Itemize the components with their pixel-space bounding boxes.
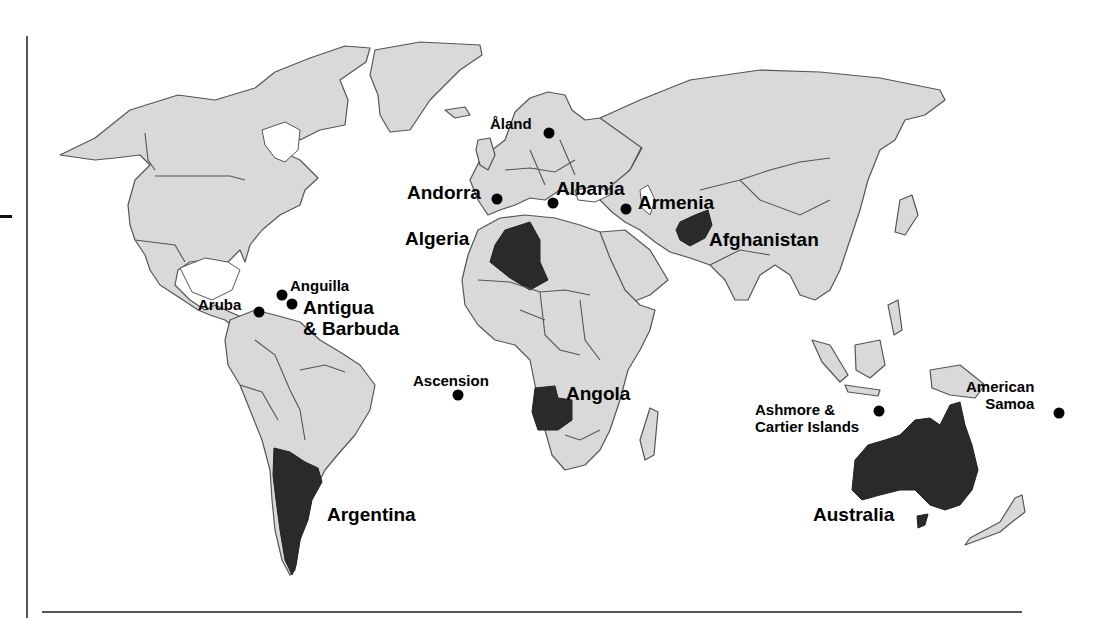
label-argentina: Argentina bbox=[327, 505, 416, 524]
marker-aruba[interactable] bbox=[254, 307, 265, 318]
australia-highlight bbox=[852, 402, 978, 510]
label-aruba: Aruba bbox=[198, 297, 241, 312]
label-afghanistan: Afghanistan bbox=[709, 230, 819, 249]
label-anguilla: Anguilla bbox=[290, 278, 349, 293]
marker-anguilla[interactable] bbox=[277, 290, 288, 301]
marker-antigua-barbuda[interactable] bbox=[287, 299, 298, 310]
label-armenia: Armenia bbox=[638, 193, 714, 212]
label-albania: Albania bbox=[556, 179, 625, 198]
marker-andorra[interactable] bbox=[492, 194, 503, 205]
marker-american-samoa[interactable] bbox=[1054, 408, 1065, 419]
label-ascension: Ascension bbox=[413, 373, 489, 388]
marker-ashmore-cartier[interactable] bbox=[874, 406, 885, 417]
label-australia: Australia bbox=[813, 505, 894, 524]
label-ashmore-cartier: Ashmore & Cartier Islands bbox=[755, 401, 859, 435]
label-angola: Angola bbox=[566, 384, 630, 403]
tasmania-highlight bbox=[917, 514, 928, 528]
gulf-of-mexico bbox=[180, 258, 240, 300]
label-andorra: Andorra bbox=[407, 183, 481, 202]
marker-armenia[interactable] bbox=[621, 204, 632, 215]
marker-aland[interactable] bbox=[544, 128, 555, 139]
java bbox=[845, 385, 880, 396]
label-american-samoa: American Samoa bbox=[966, 378, 1034, 412]
world-map bbox=[0, 0, 1109, 618]
label-aland: Åland bbox=[490, 116, 532, 131]
label-algeria: Algeria bbox=[405, 229, 469, 248]
borneo bbox=[855, 340, 885, 378]
japan bbox=[895, 195, 918, 235]
iceland bbox=[445, 107, 470, 118]
argentina-highlight bbox=[273, 448, 322, 575]
marker-ascension[interactable] bbox=[453, 390, 464, 401]
sumatra bbox=[812, 340, 848, 382]
marker-albania[interactable] bbox=[548, 198, 559, 209]
greenland bbox=[370, 42, 482, 132]
philippines bbox=[888, 300, 902, 335]
madagascar bbox=[640, 408, 658, 460]
new-zealand bbox=[965, 495, 1025, 545]
label-antigua-barbuda: Antigua & Barbuda bbox=[303, 297, 399, 339]
